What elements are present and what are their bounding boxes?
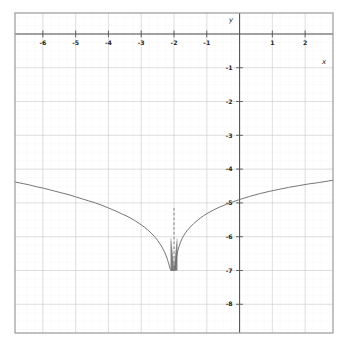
x-tick-label: -1 (203, 39, 210, 46)
y-tick-label: -8 (226, 300, 233, 307)
x-tick-label: -6 (39, 39, 46, 46)
x-tick-label: -3 (138, 39, 145, 46)
y-tick-label: -2 (226, 98, 233, 105)
x-tick-label: 2 (303, 39, 307, 46)
y-tick-label: -3 (226, 132, 233, 139)
function-plot: -6-5-4-3-2-112 -1-2-3-4-5-6-7-8 y x (0, 0, 340, 355)
chart-figure: -6-5-4-3-2-112 -1-2-3-4-5-6-7-8 y x (0, 0, 340, 355)
x-tick-label: -2 (171, 39, 178, 46)
y-axis-label: y (228, 16, 234, 24)
x-axis-label: x (321, 58, 327, 66)
y-tick-label: -1 (226, 64, 233, 71)
y-tick-label: -6 (226, 233, 233, 240)
y-tick-label: -7 (226, 267, 233, 274)
y-tick-label: -4 (226, 165, 234, 172)
x-tick-label: -5 (72, 39, 79, 46)
x-tick-label: -4 (105, 39, 113, 46)
x-tick-label: 1 (270, 39, 274, 46)
